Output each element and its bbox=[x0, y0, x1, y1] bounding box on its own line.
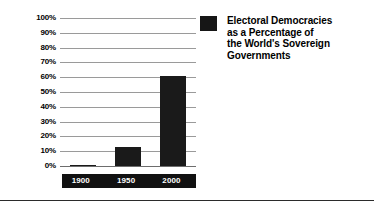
legend-label-line: Electoral Democracies bbox=[227, 15, 332, 27]
legend-label: Electoral Democraciesas a Percentage oft… bbox=[227, 15, 332, 61]
x-axis-tick-label: 1900 bbox=[72, 177, 90, 185]
y-axis-tick-label: 70% bbox=[10, 58, 56, 66]
gridline bbox=[60, 62, 196, 63]
x-axis-tick-label: 1950 bbox=[117, 177, 135, 185]
legend-label-line: Governments bbox=[227, 50, 332, 62]
plot-area bbox=[60, 18, 196, 166]
bottom-divider bbox=[0, 200, 374, 201]
legend-label-line: the World's Sovereign bbox=[227, 38, 332, 50]
gridline bbox=[60, 33, 196, 34]
chart-figure: 100%90%80%70%60%50%40%30%20%10%0% 190019… bbox=[0, 0, 374, 209]
gridline bbox=[60, 166, 196, 167]
y-axis-tick-label: 80% bbox=[10, 44, 56, 52]
y-axis-tick-label: 30% bbox=[10, 118, 56, 126]
y-axis-tick-label: 60% bbox=[10, 73, 56, 81]
bar-1900 bbox=[70, 165, 96, 166]
y-axis-tick-label: 20% bbox=[10, 132, 56, 140]
gridline bbox=[60, 48, 196, 49]
gridline bbox=[60, 18, 196, 19]
y-axis-tick-label: 0% bbox=[10, 162, 56, 170]
y-axis-tick-label: 10% bbox=[10, 147, 56, 155]
y-axis-tick-label: 100% bbox=[10, 14, 56, 22]
bar-1950 bbox=[115, 147, 141, 166]
y-axis-tick-label: 90% bbox=[10, 29, 56, 37]
bar-2000 bbox=[160, 76, 186, 166]
x-axis-tick-label: 2000 bbox=[162, 177, 180, 185]
legend-swatch-icon bbox=[200, 16, 217, 31]
x-axis-band: 190019502000 bbox=[62, 174, 196, 188]
legend-label-line: as a Percentage of bbox=[227, 27, 332, 39]
y-axis-tick-label: 50% bbox=[10, 88, 56, 96]
legend: Electoral Democraciesas a Percentage oft… bbox=[200, 15, 332, 61]
y-axis-tick-label: 40% bbox=[10, 103, 56, 111]
